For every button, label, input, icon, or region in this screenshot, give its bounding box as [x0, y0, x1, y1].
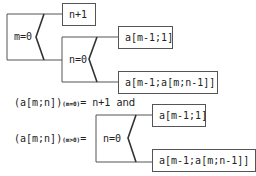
- formula1-rhs: n+1: [92, 97, 110, 108]
- bottom-cond-n-equals-0: n=0: [103, 133, 121, 144]
- formula1-equals: =: [80, 97, 86, 108]
- formula2-equals: =: [80, 133, 86, 144]
- result-n-plus-1-box: n+1: [62, 3, 96, 26]
- formula2-lhs: (a[m;n]): [14, 133, 62, 144]
- bottom-result-a-recursive-box: a[m-1;a[m;n-1]]: [152, 149, 256, 172]
- formula2-subscript: (m>0): [62, 136, 80, 143]
- formula1-subscript: (m=0): [62, 100, 80, 107]
- result-a-m1-1-box: a[m-1;1]: [118, 26, 173, 49]
- formula-m-positive: (a[m;n])(m>0)=: [14, 133, 86, 144]
- cond-m-equals-0: m=0: [14, 31, 32, 42]
- bottom-result-a-m1-1-box: a[m-1;1]: [152, 104, 206, 127]
- cond-n-equals-0: n=0: [69, 54, 87, 65]
- formula1-lhs: (a[m;n]): [14, 97, 62, 108]
- formula1-and: and: [116, 97, 135, 108]
- result-a-recursive-box: a[m-1;a[m;n-1]]: [118, 71, 218, 94]
- formula-m-zero: (a[m;n])(m=0)= n+1 and: [14, 97, 135, 108]
